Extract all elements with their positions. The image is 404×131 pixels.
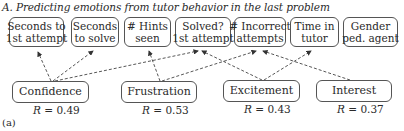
feature-box-seconds-to-solve: Seconds to solve	[71, 17, 119, 47]
feature-label-line2: 1st attempt	[6, 32, 67, 45]
emotion-label: Frustration	[127, 86, 191, 99]
feature-box-hints-seen: # Hints seen	[124, 17, 171, 47]
r-symbol: R	[142, 104, 150, 116]
emotion-box-interest: Interest	[316, 80, 392, 102]
feature-label-line1: Gender	[351, 20, 390, 33]
feature-label-line1: Seconds	[73, 20, 117, 33]
feature-label-line2: 1st attempt	[172, 32, 233, 45]
r-number: = 0.37	[348, 103, 384, 115]
emotion-label: Interest	[332, 85, 376, 98]
emotion-label: Excitement	[230, 85, 293, 98]
r-number: = 0.53	[153, 104, 189, 116]
edge-confidence-sec-first	[38, 52, 51, 81]
feature-label-line1: Seconds to	[7, 20, 65, 33]
feature-label-line2: to solve	[74, 32, 115, 45]
r-value-frustration: R = 0.53	[142, 104, 189, 116]
panel-label: (a)	[2, 117, 16, 128]
feature-box-incorrect-attempts: # Incorrect attempts	[234, 17, 286, 47]
feature-label-line2: attempts	[236, 32, 283, 45]
edge-frustration-incorrect	[162, 51, 256, 81]
feature-label-line2: seen	[135, 32, 160, 45]
feature-label-line2: tutor	[301, 32, 328, 45]
feature-label-line1: Time in	[295, 20, 335, 33]
edge-frustration-hints	[149, 51, 160, 81]
r-symbol: R	[337, 103, 345, 115]
edge-excitement-time	[264, 51, 311, 80]
feature-box-time-in-tutor: Time in tutor	[290, 17, 339, 47]
edge-interest-incorrect	[263, 51, 350, 80]
r-symbol: R	[244, 103, 252, 115]
edge-confidence-sec-solve	[53, 51, 93, 81]
r-symbol: R	[33, 104, 41, 116]
feature-box-solved-first-attempt: Solved? 1st attempt	[175, 17, 231, 47]
r-number: = 0.49	[44, 104, 80, 116]
r-value-confidence: R = 0.49	[33, 104, 80, 116]
emotion-box-excitement: Excitement	[223, 80, 300, 102]
emotion-box-confidence: Confidence	[12, 81, 89, 103]
feature-box-seconds-to-first-attempt: Seconds to 1st attempt	[9, 17, 64, 47]
emotion-box-frustration: Frustration	[121, 81, 197, 103]
feature-label-line1: Solved?	[182, 20, 223, 33]
feature-label-line1: # Incorrect	[229, 20, 291, 33]
r-value-interest: R = 0.37	[337, 103, 384, 115]
r-number: = 0.43	[255, 103, 291, 115]
feature-label-line1: # Hints	[127, 20, 168, 33]
feature-label-line2: ped. agent	[342, 32, 399, 45]
emotion-label: Confidence	[19, 86, 82, 99]
feature-box-gender-ped-agent: Gender ped. agent	[343, 17, 398, 47]
r-value-excitement: R = 0.43	[244, 103, 291, 115]
